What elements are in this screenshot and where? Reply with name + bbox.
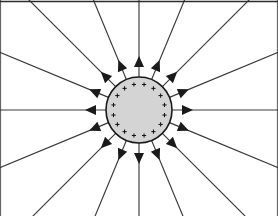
electric-field-diagram — [0, 0, 278, 216]
sphere-outline — [106, 77, 172, 143]
charged-sphere — [106, 77, 172, 143]
diagram-canvas — [0, 0, 278, 216]
